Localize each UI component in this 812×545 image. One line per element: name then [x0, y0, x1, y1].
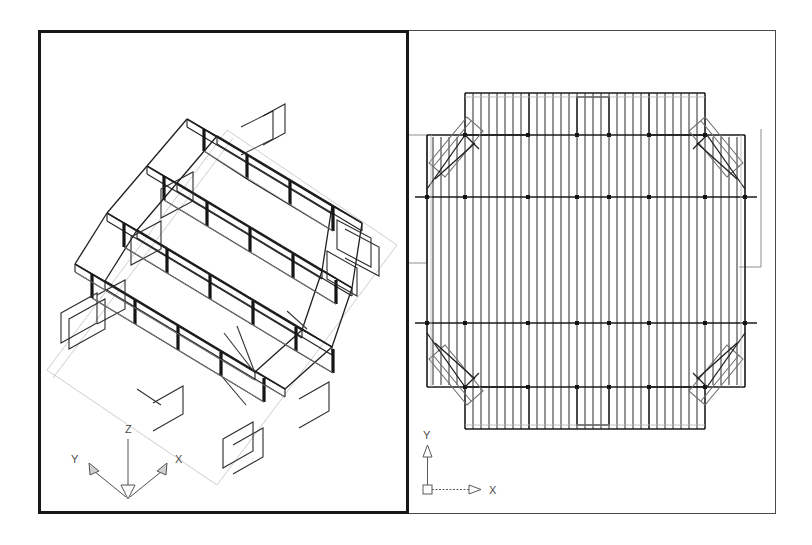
ucs-axis-label-x: X	[489, 484, 497, 496]
ucs-axis-label-z: Z	[125, 423, 132, 435]
ucs-axis-label-x: X	[175, 453, 183, 465]
plan-view-viewport[interactable]: Y X	[409, 30, 776, 514]
ucs-icon-2d: Y X	[413, 423, 523, 509]
ucs-axis-label-y: Y	[423, 429, 431, 441]
grid-beam-lines	[415, 135, 757, 387]
joist-bay-3	[107, 213, 333, 373]
isometric-model-viewport[interactable]: Z Y X	[38, 30, 409, 514]
joist-bay-2	[147, 166, 352, 304]
ucs-icon-3d: Z Y X	[63, 419, 193, 509]
construction-offset-lines	[431, 97, 741, 425]
secondary-framing-lines	[75, 151, 336, 402]
cad-drawing-canvas: Z Y X	[0, 0, 812, 545]
plan-viewport-canvas: Y X	[409, 31, 775, 513]
ucs-axis-label-y: Y	[71, 453, 79, 465]
model-viewport-canvas: Z Y X	[41, 33, 406, 511]
joist-bay-4	[75, 264, 285, 402]
joist-lines	[433, 93, 737, 429]
